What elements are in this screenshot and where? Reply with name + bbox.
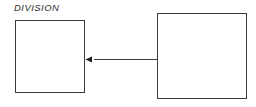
connector-layer	[0, 0, 256, 107]
arrowhead-icon	[86, 57, 93, 63]
diagram-canvas: DIVISION	[0, 0, 256, 107]
